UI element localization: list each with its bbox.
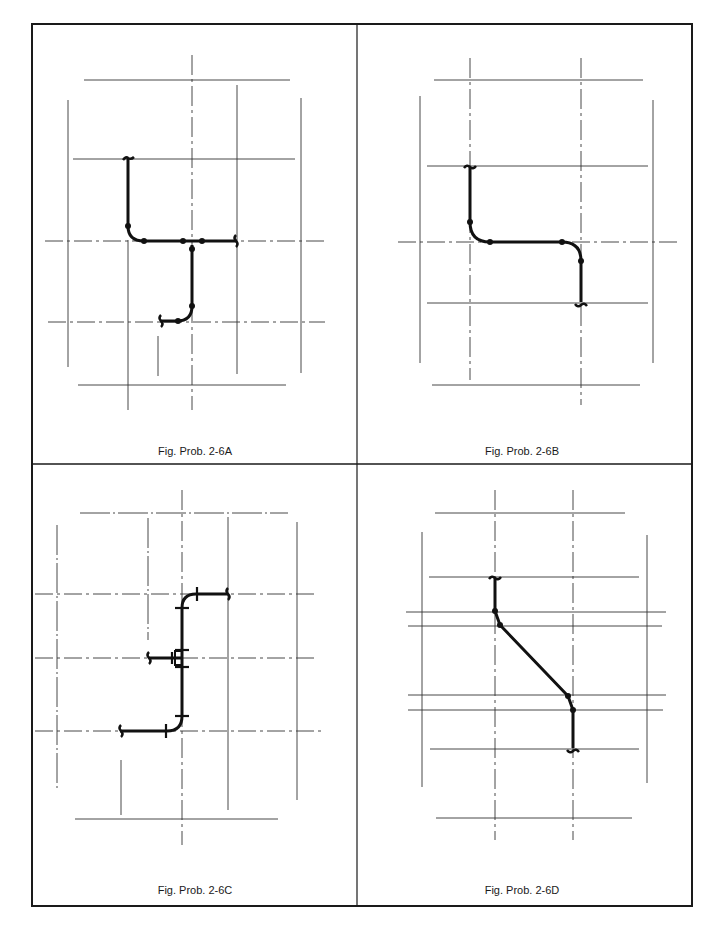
- problem-figure-sheet: [0, 0, 714, 934]
- panel-a-grid: [45, 55, 326, 410]
- panel-b-break-symbols: [464, 166, 587, 307]
- caption-panel-c: Fig. Prob. 2-6C: [30, 884, 360, 896]
- caption-panel-a: Fig. Prob. 2-6A: [30, 445, 360, 457]
- panel-b-pipe: [470, 167, 581, 302]
- panel-b-grid: [398, 58, 681, 405]
- panel-d-grid: [406, 490, 666, 840]
- caption-panel-d: Fig. Prob. 2-6D: [357, 884, 687, 896]
- caption-panel-b: Fig. Prob. 2-6B: [357, 445, 687, 457]
- frame: [32, 24, 692, 906]
- panel-d-break-symbols: [489, 577, 579, 753]
- panel-c-pipe: [120, 594, 228, 731]
- panel-d-pipe: [495, 578, 573, 748]
